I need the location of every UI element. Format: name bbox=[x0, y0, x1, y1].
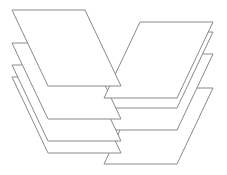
sheets-group bbox=[12, 10, 213, 164]
stacked-sheets-diagram bbox=[0, 0, 227, 175]
